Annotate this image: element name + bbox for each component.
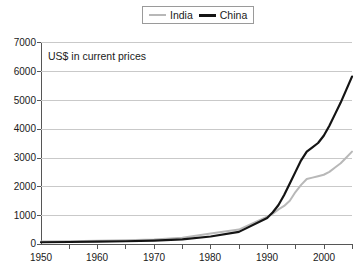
legend-label-china: China — [220, 10, 247, 21]
plot-area — [41, 42, 352, 244]
y-tick-label: 2000 — [14, 182, 36, 192]
x-tick-label: 1980 — [190, 252, 230, 263]
x-axis-line — [41, 244, 353, 245]
y-tick-label: 7000 — [14, 38, 36, 48]
y-tick-label: 4000 — [14, 124, 36, 134]
x-tick-mark — [69, 245, 70, 249]
series-line-china — [41, 77, 352, 243]
chart-container: India China 7000 6000 5000 4000 3000 200… — [0, 0, 362, 274]
x-tick-mark — [125, 245, 126, 249]
chart-legend: India China — [142, 6, 254, 24]
x-tick-mark — [210, 245, 211, 249]
y-tick-label: 0 — [30, 239, 36, 249]
series-line-india — [41, 152, 352, 242]
chart-annotation: US$ in current prices — [48, 50, 146, 62]
legend-label-india: India — [170, 10, 193, 21]
series-layer — [41, 42, 352, 244]
x-tick-mark — [324, 245, 325, 249]
legend-entry-china: China — [199, 10, 247, 21]
x-tick-label: 2000 — [304, 252, 344, 263]
legend-entry-india: India — [149, 10, 193, 21]
x-tick-label: 1970 — [134, 252, 174, 263]
x-tick-mark — [154, 245, 155, 249]
x-tick-label: 1950 — [21, 252, 61, 263]
y-tick-label: 3000 — [14, 153, 36, 163]
x-tick-label: 1990 — [247, 252, 287, 263]
x-tick-label: 1960 — [77, 252, 117, 263]
x-tick-mark — [239, 245, 240, 249]
y-tick-label: 5000 — [14, 96, 36, 106]
y-tick-label: 6000 — [14, 67, 36, 77]
line-swatch-icon-india — [149, 14, 166, 16]
x-tick-mark — [97, 245, 98, 249]
y-tick-label: 1000 — [14, 211, 36, 221]
x-tick-mark — [295, 245, 296, 249]
x-tick-mark — [182, 245, 183, 249]
x-tick-mark — [352, 245, 353, 249]
line-swatch-icon-china — [199, 14, 216, 17]
x-tick-mark — [267, 245, 268, 249]
